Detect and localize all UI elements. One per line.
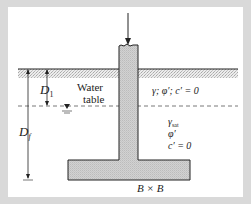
water-table-label-line2: table [83,93,104,105]
footing [68,44,190,180]
water-table-label-line1: Water [77,81,103,93]
df-label: Df [18,124,32,141]
lower-soil-gamma: γsat [168,116,179,128]
footing-size-label: B × B [137,182,164,194]
water-table-icon [62,104,72,113]
lower-soil-phi: φ′ [168,128,177,139]
footing-diagram: D1 Df Water table γ; φ′; c′ = 0 γsat φ′ … [0,0,251,204]
d1-label: D1 [39,82,53,99]
load-arrow-icon [125,13,131,45]
upper-soil-properties: γ; φ′; c′ = 0 [152,85,199,96]
lower-soil-cohesion: c′ = 0 [168,140,191,151]
